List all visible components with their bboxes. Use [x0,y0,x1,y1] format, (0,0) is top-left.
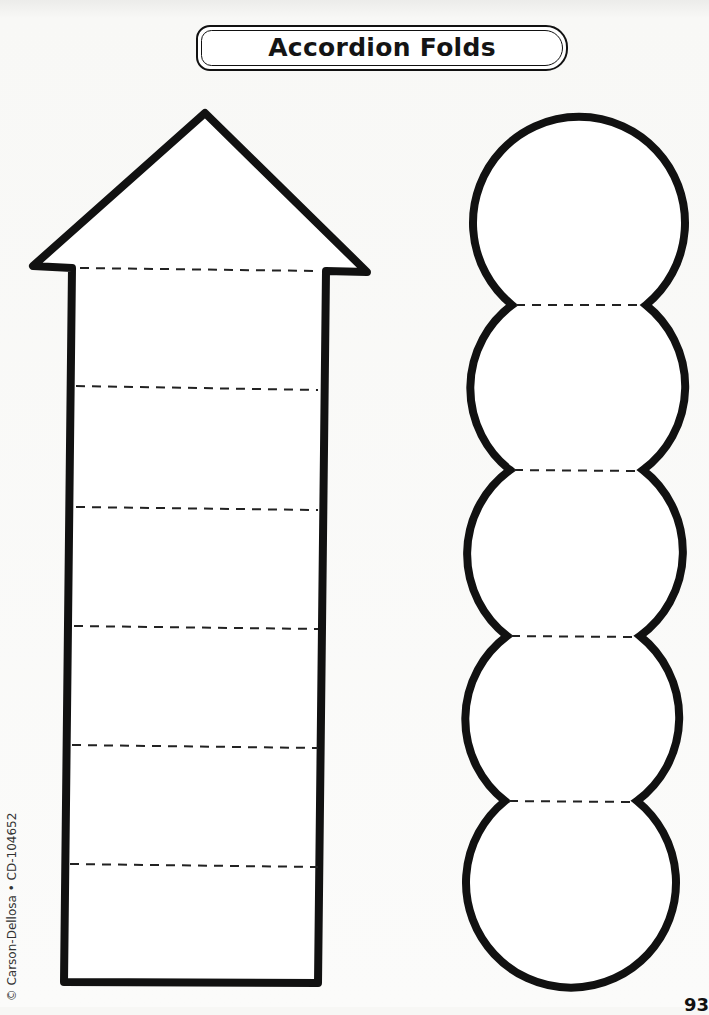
copyright-notice: © Carson-Dellosa • CD-104652 [5,807,19,1007]
circle-chain-template [465,117,685,988]
page-number: 93 [684,994,709,1015]
page-title: Accordion Folds [198,33,566,62]
arrow-template [33,113,367,983]
